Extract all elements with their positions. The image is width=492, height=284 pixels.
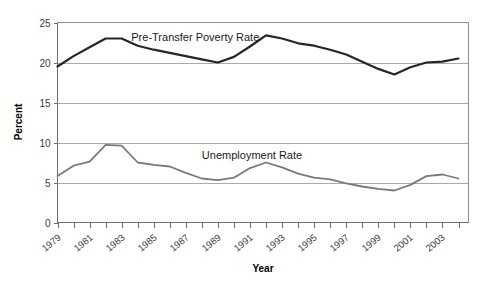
series-annotation-1: Unemployment Rate <box>202 149 302 161</box>
plot-area-border <box>58 23 469 223</box>
series-group <box>58 35 459 190</box>
x-tick-label-2001: 2001 <box>392 232 415 254</box>
chart-canvas: 0510152025 19791981198319851987198919911… <box>0 0 492 284</box>
y-axis-title: Percent <box>13 103 24 140</box>
y-tick-label-15: 15 <box>39 98 51 109</box>
y-tick-label-20: 20 <box>39 58 51 69</box>
x-tick-label-2003: 2003 <box>424 232 447 254</box>
x-tick-label-1993: 1993 <box>264 232 287 254</box>
x-tick-label-1987: 1987 <box>168 232 191 254</box>
x-tick-group: 1979198119831985198719891991199319951997… <box>40 223 460 254</box>
x-tick-label-1983: 1983 <box>104 232 127 254</box>
x-tick-label-1995: 1995 <box>296 232 319 254</box>
x-tick-label-1979: 1979 <box>40 232 63 254</box>
y-tick-label-5: 5 <box>45 178 51 189</box>
x-axis-title: Year <box>252 263 273 274</box>
y-tick-label-10: 10 <box>39 138 51 149</box>
x-tick-label-1981: 1981 <box>72 232 95 254</box>
gridlines-group <box>58 64 469 184</box>
y-tick-label-0: 0 <box>45 218 51 229</box>
chart-figure: 0510152025 19791981198319851987198919911… <box>0 0 492 284</box>
x-tick-label-1985: 1985 <box>136 232 159 254</box>
y-tick-group: 0510152025 <box>39 18 57 229</box>
x-tick-label-1999: 1999 <box>360 232 383 254</box>
x-tick-label-1991: 1991 <box>232 232 255 254</box>
x-tick-label-1989: 1989 <box>200 232 223 254</box>
x-tick-label-1997: 1997 <box>328 232 351 254</box>
series-annotation-0: Pre-Transfer Poverty Rate <box>131 31 259 43</box>
y-tick-label-25: 25 <box>39 18 51 29</box>
